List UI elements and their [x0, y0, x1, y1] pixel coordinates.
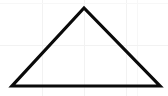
triangle-figure — [0, 0, 168, 96]
figure-canvas — [0, 0, 168, 96]
